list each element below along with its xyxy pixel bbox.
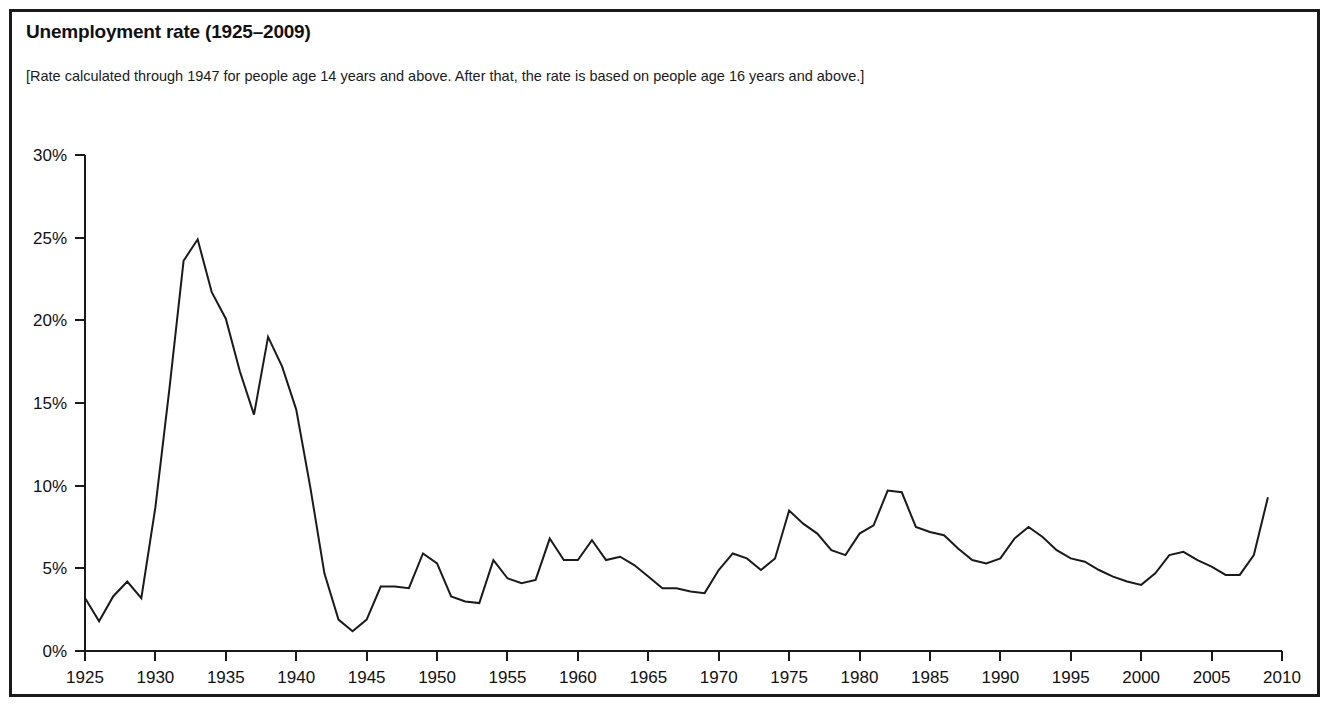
- y-tick-label: 30%: [33, 146, 67, 165]
- x-tick-label: 1970: [700, 668, 738, 687]
- x-tick-label: 1925: [66, 668, 104, 687]
- x-tick-label: 2005: [1193, 668, 1231, 687]
- chart-page: Unemployment rate (1925–2009) [Rate calc…: [0, 0, 1329, 706]
- y-axis-ticks: 0%5%10%15%20%25%30%: [33, 146, 85, 661]
- axis-lines: [85, 155, 1282, 651]
- x-tick-label: 1995: [1052, 668, 1090, 687]
- y-tick-label: 20%: [33, 311, 67, 330]
- x-tick-label: 1980: [841, 668, 879, 687]
- x-tick-label: 1940: [277, 668, 315, 687]
- x-tick-label: 1985: [911, 668, 949, 687]
- x-tick-label: 2010: [1263, 668, 1301, 687]
- x-tick-label: 1950: [418, 668, 456, 687]
- x-tick-label: 1990: [981, 668, 1019, 687]
- line-chart-svg: 0%5%10%15%20%25%30% 19251930193519401945…: [0, 0, 1329, 706]
- x-tick-label: 1960: [559, 668, 597, 687]
- unemployment-rate-line: [85, 239, 1268, 631]
- y-tick-label: 15%: [33, 394, 67, 413]
- x-tick-label: 1975: [770, 668, 808, 687]
- y-tick-label: 25%: [33, 229, 67, 248]
- y-tick-label: 5%: [42, 559, 67, 578]
- x-tick-label: 1930: [136, 668, 174, 687]
- x-tick-label: 1955: [489, 668, 527, 687]
- plot-area: 0%5%10%15%20%25%30% 19251930193519401945…: [0, 0, 1329, 706]
- y-tick-label: 0%: [42, 642, 67, 661]
- x-tick-label: 1945: [348, 668, 386, 687]
- y-tick-label: 10%: [33, 477, 67, 496]
- x-tick-label: 1935: [207, 668, 245, 687]
- x-axis-ticks: 1925193019351940194519501955196019651970…: [66, 651, 1301, 687]
- x-tick-label: 1965: [629, 668, 667, 687]
- x-tick-label: 2000: [1122, 668, 1160, 687]
